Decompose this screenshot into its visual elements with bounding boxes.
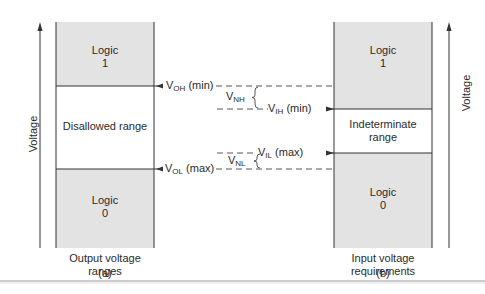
voh-arrow-icon bbox=[156, 84, 163, 89]
right-axis-arrowhead-icon bbox=[447, 22, 452, 31]
vil-max-label: VIL (max) bbox=[258, 146, 303, 162]
indeterminate-range-label: Indeterminate range bbox=[334, 118, 432, 144]
vnh-label: VNH bbox=[226, 90, 245, 106]
right-logic0-label: Logic 0 bbox=[334, 186, 432, 212]
left-logic1-label: Logic 1 bbox=[56, 44, 154, 70]
vil-arrow-icon bbox=[326, 151, 334, 156]
vih-min-label: VIH (min) bbox=[268, 102, 311, 118]
vnl-label: VNL bbox=[228, 154, 246, 170]
vol-max-label: VOL (max) bbox=[165, 162, 214, 178]
right-logic1-label: Logic 1 bbox=[334, 44, 432, 70]
right-axis-label: Voltage bbox=[460, 68, 472, 118]
vih-arrow-icon bbox=[326, 107, 334, 112]
vnh-brace-icon bbox=[252, 87, 258, 108]
figure-tag-a: (a) bbox=[85, 267, 125, 280]
voh-min-label: VOH (min) bbox=[166, 79, 213, 95]
vol-arrow-icon bbox=[156, 167, 163, 172]
left-axis-arrowhead-icon bbox=[38, 22, 43, 31]
left-axis-label: Voltage bbox=[27, 109, 39, 159]
left-logic0-label: Logic 0 bbox=[56, 194, 154, 220]
disallowed-range-label: Disallowed range bbox=[56, 120, 154, 133]
figure-tag-b: (b) bbox=[363, 267, 403, 280]
